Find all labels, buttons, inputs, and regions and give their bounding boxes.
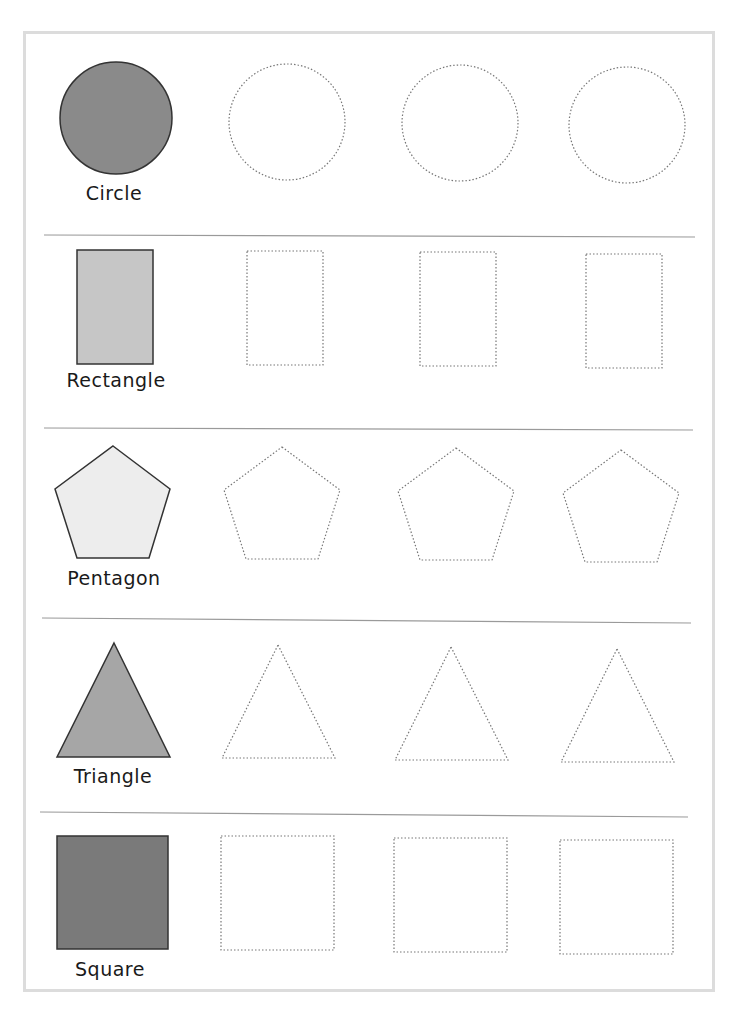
pentagon-example [55,446,170,558]
triangle-trace[interactable] [222,645,335,758]
pentagon-trace[interactable] [224,447,340,559]
rectangle-example [77,250,153,364]
square-trace[interactable] [560,840,673,954]
triangle-trace[interactable] [395,647,508,760]
triangle-example [57,643,170,757]
rectangle-trace[interactable] [247,251,323,365]
rectangle-trace[interactable] [586,254,662,368]
divider [44,235,695,237]
shape-label-square: Square [30,958,190,980]
square-trace[interactable] [221,836,334,950]
divider [42,618,691,623]
shapes-canvas [0,0,735,1034]
shape-label-triangle: Triangle [33,765,193,787]
circle-trace[interactable] [229,64,345,180]
divider [44,428,693,430]
shape-label-circle: Circle [34,182,194,204]
circle-example [60,62,172,174]
circle-trace[interactable] [569,67,685,183]
pentagon-trace[interactable] [398,448,514,560]
triangle-trace[interactable] [561,649,674,762]
square-trace[interactable] [394,838,507,952]
shape-label-pentagon: Pentagon [34,567,194,589]
rectangle-trace[interactable] [420,252,496,366]
shape-label-rectangle: Rectangle [36,369,196,391]
pentagon-trace[interactable] [563,450,679,562]
circle-trace[interactable] [402,65,518,181]
divider [40,812,688,817]
square-example [57,836,168,949]
